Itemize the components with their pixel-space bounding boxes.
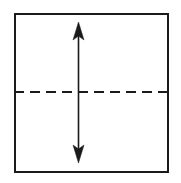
canvas-background (0, 0, 181, 183)
figure-root: Square with horizontal dashed midline an… (0, 0, 181, 183)
geometry-diagram-canvas (0, 0, 181, 183)
